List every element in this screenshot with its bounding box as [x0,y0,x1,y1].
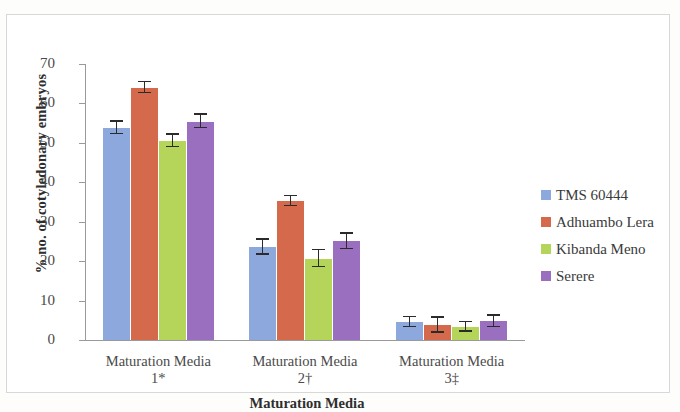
bar[interactable] [277,201,304,340]
x-axis-label-line: Maturation Media [78,353,238,370]
bar[interactable] [333,241,360,340]
error-bar-cap-bottom [459,330,472,332]
error-bar-cap-bottom [284,205,297,207]
bar-fill [187,122,214,340]
bar-group [85,50,232,340]
y-axis-tick-label: 60 [15,95,55,110]
error-bar-cap-bottom [340,248,353,250]
error-bar-cap-bottom [166,146,179,148]
x-axis-label-line: 2† [225,370,385,387]
bar[interactable] [131,88,158,340]
bar[interactable] [159,141,186,340]
error-bar-cap-top [284,195,297,197]
bar-fill [159,141,186,340]
legend-label: TMS 60444 [556,188,628,203]
error-bar-cap-top [110,120,123,122]
error-bar-cap-top [431,316,444,318]
error-bar-cap-top [166,133,179,135]
error-bar-cap-top [340,232,353,234]
error-bar-cap-top [403,316,416,318]
error-bar-cap-top [194,113,207,115]
error-bar-cap-bottom [487,326,500,328]
error-bar [318,250,319,267]
error-bar-cap-top [256,238,269,240]
legend-item[interactable]: Serere [541,268,654,284]
chart-legend: TMS 60444Adhuambo LeraKibanda MenoSerere [541,187,654,295]
bar[interactable] [305,259,332,340]
bar-group [378,50,525,340]
y-axis-tick-label: 10 [15,293,55,308]
error-bar-cap-top [312,249,325,251]
legend-label: Adhuambo Lera [556,215,654,230]
bar-fill [277,201,304,340]
x-axis-label-line: 3‡ [372,370,532,387]
bar-fill [249,247,276,340]
error-bar-cap-bottom [138,92,151,94]
legend-label: Kibanda Meno [556,242,646,257]
bar[interactable] [249,247,276,340]
error-bar-cap-top [138,81,151,83]
x-axis-label: Maturation Media1* [78,353,238,386]
x-axis-label-line: 1* [78,370,238,387]
legend-swatch [541,271,551,281]
bar-fill [103,128,130,340]
error-bar-cap-bottom [194,127,207,129]
bar-fill [333,241,360,340]
bar-fill [305,259,332,340]
legend-item[interactable]: Kibanda Meno [541,241,654,257]
x-axis-label-line: Maturation Media [225,353,385,370]
y-axis-tick-label: 70 [15,56,55,71]
legend-swatch [541,244,551,254]
legend-label: Serere [556,269,594,284]
bar[interactable] [187,122,214,340]
x-axis-label-line: Maturation Media [372,353,532,370]
y-axis-tick-label: 0 [15,332,55,347]
legend-swatch [541,217,551,227]
error-bar-cap-bottom [110,133,123,135]
legend-item[interactable]: TMS 60444 [541,187,654,203]
plot-area [85,50,525,340]
y-axis-tick-label: 50 [15,135,55,150]
x-axis-line [85,340,525,341]
error-bar-cap-bottom [312,266,325,268]
x-axis-label: Maturation Media3‡ [372,353,532,386]
bar-group [232,50,379,340]
y-axis-tick-label: 40 [15,174,55,189]
chart-container: % no. of cotyledonary embryos 0102030405… [6,14,670,393]
error-bar-cap-top [487,314,500,316]
error-bar-cap-top [459,321,472,323]
error-bar-cap-bottom [431,331,444,333]
x-axis-title: Maturation Media [157,395,457,412]
bar[interactable] [103,128,130,340]
error-bar-cap-bottom [256,253,269,255]
y-axis-tick [79,340,85,341]
bar-fill [131,88,158,340]
y-axis-tick-label: 20 [15,253,55,268]
legend-swatch [541,190,551,200]
legend-item[interactable]: Adhuambo Lera [541,214,654,230]
error-bar-cap-bottom [403,326,416,328]
y-axis-tick-label: 30 [15,214,55,229]
x-axis-label: Maturation Media2† [225,353,385,386]
